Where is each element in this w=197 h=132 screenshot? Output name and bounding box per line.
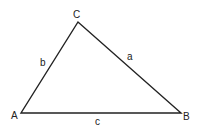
vertex-label-b: B xyxy=(183,111,190,122)
side-label-b: b xyxy=(40,57,46,68)
triangle-figure: C A B b a c xyxy=(0,0,197,132)
side-label-c: c xyxy=(95,116,100,127)
triangle-diagram: C A B b a c xyxy=(0,0,197,132)
side-label-a: a xyxy=(127,51,133,62)
vertex-label-a: A xyxy=(11,110,18,121)
vertex-label-c: C xyxy=(73,9,80,20)
